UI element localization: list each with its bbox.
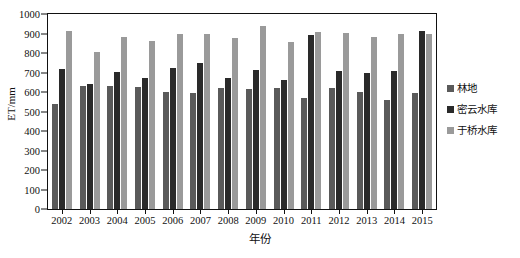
x-tick-mark: [394, 210, 395, 214]
bar-group: [131, 14, 159, 209]
y-tick-label: 0: [35, 204, 40, 215]
x-tick-label: 2014: [384, 215, 405, 226]
y-tick-label: 500: [24, 106, 40, 117]
bar: [301, 98, 307, 209]
x-tick-mark: [311, 210, 312, 214]
bar: [260, 26, 266, 209]
x-tick-mark: [117, 210, 118, 214]
bar: [419, 31, 425, 209]
bar: [274, 88, 280, 209]
y-tick-label: 600: [24, 87, 40, 98]
x-tick-label: 2013: [356, 215, 377, 226]
x-tick-label: 2011: [301, 215, 322, 226]
bar: [253, 70, 259, 209]
legend-swatch-icon: [447, 106, 454, 113]
x-tick-label: 2003: [79, 215, 100, 226]
bar-group: [103, 14, 131, 209]
x-tick-label: 2008: [218, 215, 239, 226]
legend-swatch-icon: [447, 85, 454, 92]
y-tick-label: 100: [24, 184, 40, 195]
bar-group: [242, 14, 270, 209]
bar-group: [159, 14, 187, 209]
legend-item[interactable]: 于桥水库: [447, 124, 519, 136]
y-axis-title: ET/mm: [5, 74, 17, 134]
legend-label: 林地: [457, 83, 477, 94]
bar-group: [187, 14, 215, 209]
y-tick-label: 1000: [19, 9, 40, 20]
legend-label: 密云水库: [457, 104, 497, 115]
bar-group: [48, 14, 76, 209]
bar: [371, 37, 377, 209]
bar: [232, 38, 238, 209]
bar: [52, 104, 58, 209]
bar: [107, 86, 113, 209]
bars-layer: [48, 14, 436, 209]
bar: [197, 63, 203, 209]
bar: [343, 33, 349, 209]
x-tick-label: 2009: [245, 215, 266, 226]
bar: [398, 34, 404, 210]
x-tick-mark: [367, 210, 368, 214]
bar: [288, 42, 294, 209]
legend-label: 于桥水库: [457, 125, 497, 136]
x-tick-label: 2015: [412, 215, 433, 226]
x-tick-mark: [200, 210, 201, 214]
bar-group: [270, 14, 298, 209]
y-tick-label: 200: [24, 165, 40, 176]
x-tick-mark: [228, 210, 229, 214]
y-tick-label: 900: [24, 28, 40, 39]
x-tick-mark: [422, 210, 423, 214]
bar: [80, 86, 86, 209]
bar: [218, 88, 224, 209]
y-tick-label: 300: [24, 145, 40, 156]
bar: [364, 73, 370, 210]
bar: [412, 93, 418, 209]
y-tick-label: 400: [24, 126, 40, 137]
bar: [308, 35, 314, 209]
bar: [94, 52, 100, 209]
bar: [336, 71, 342, 209]
x-tick-mark: [173, 210, 174, 214]
bar-group: [297, 14, 325, 209]
bar: [281, 80, 287, 209]
bar: [149, 41, 155, 209]
x-axis-title: 年份: [0, 230, 520, 246]
x-tick-label: 2004: [107, 215, 128, 226]
x-tick-label: 2012: [329, 215, 350, 226]
bar: [315, 32, 321, 209]
bar-group: [381, 14, 409, 209]
bar: [225, 78, 231, 209]
bar: [384, 100, 390, 209]
x-tick-label: 2010: [273, 215, 294, 226]
bar-group: [325, 14, 353, 209]
bar: [246, 89, 252, 209]
x-tick-label: 2007: [190, 215, 211, 226]
bar-group: [214, 14, 242, 209]
bar: [204, 34, 210, 209]
y-tick-label: 800: [24, 48, 40, 59]
bar: [426, 34, 432, 210]
bar: [391, 71, 397, 209]
bar: [190, 93, 196, 209]
x-tick-mark: [145, 210, 146, 214]
bar-chart: 01002003004005006007008009001000 ET/mm 2…: [0, 0, 520, 258]
bar-group: [408, 14, 436, 209]
x-tick-mark: [284, 210, 285, 214]
legend: 林地密云水库于桥水库: [447, 82, 519, 145]
x-tick-label: 2005: [135, 215, 156, 226]
x-tick-mark: [62, 210, 63, 214]
legend-swatch-icon: [447, 127, 454, 134]
bar-group: [76, 14, 104, 209]
bar: [142, 78, 148, 209]
bar: [114, 72, 120, 209]
bar: [87, 84, 93, 209]
bar: [59, 69, 65, 209]
x-tick-mark: [256, 210, 257, 214]
bar: [170, 68, 176, 209]
legend-item[interactable]: 林地: [447, 82, 519, 94]
legend-item[interactable]: 密云水库: [447, 103, 519, 115]
y-tick-label: 700: [24, 67, 40, 78]
x-tick-mark: [90, 210, 91, 214]
x-tick-label: 2002: [51, 215, 72, 226]
bar: [121, 37, 127, 209]
